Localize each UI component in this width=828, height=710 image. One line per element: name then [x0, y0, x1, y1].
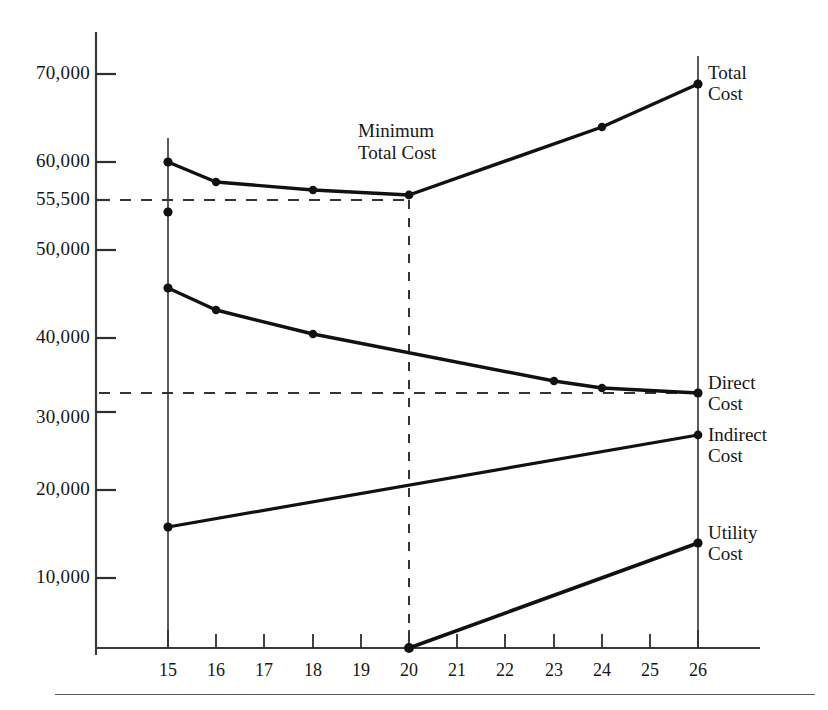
series-label-utility-cost-line2: Cost: [708, 543, 758, 564]
series-label-total-cost-line2: Cost: [708, 83, 747, 104]
xtick-label-26: 26: [678, 660, 718, 681]
chart-canvas: [0, 0, 828, 710]
series-label-direct-cost-line2: Cost: [708, 393, 755, 414]
series-label-utility-cost: Utility Cost: [708, 522, 758, 564]
series-label-total-cost: Total Cost: [708, 62, 747, 104]
series-direct-cost: [163, 283, 702, 397]
ytick-label-20000: 20,000: [0, 478, 90, 500]
xtick-label-19: 19: [341, 660, 381, 681]
cost-vs-duration-chart: 70,000 60,000 55,500 50,000 40,000 30,00…: [0, 0, 828, 710]
xtick-label-17: 17: [244, 660, 284, 681]
ytick-label-30000: 30,000: [0, 406, 90, 428]
ytick-label-60000: 60,000: [0, 150, 90, 172]
xtick-label-20: 20: [389, 660, 429, 681]
ytick-label-55500: 55,500: [0, 188, 90, 210]
series-label-utility-cost-line1: Utility: [708, 522, 758, 543]
series-label-direct-cost: Direct Cost: [708, 372, 755, 414]
ytick-label-10000: 10,000: [0, 566, 90, 588]
series-label-indirect-cost-line2: Cost: [708, 445, 767, 466]
y-axis-ticks: [96, 74, 116, 578]
series-label-total-cost-line1: Total: [708, 62, 747, 83]
annotation-minimum-total-cost: Minimum Total Cost: [358, 120, 436, 164]
ytick-label-50000: 50,000: [0, 238, 90, 260]
series-indirect-cost: [163, 431, 702, 532]
bottom-divider-rule: [55, 694, 815, 695]
ytick-label-40000: 40,000: [0, 326, 90, 348]
xtick-label-18: 18: [293, 660, 333, 681]
xtick-label-16: 16: [196, 660, 236, 681]
crash-point-marker: [163, 207, 172, 216]
ytick-label-70000: 70,000: [0, 62, 90, 84]
xtick-label-23: 23: [534, 660, 574, 681]
annotation-minimum-total-cost-line1: Minimum: [358, 120, 436, 142]
xtick-label-22: 22: [485, 660, 525, 681]
series-label-indirect-cost: Indirect Cost: [708, 424, 767, 466]
series-label-indirect-cost-line1: Indirect: [708, 424, 767, 445]
series-label-direct-cost-line1: Direct: [708, 372, 755, 393]
xtick-label-21: 21: [437, 660, 477, 681]
annotation-minimum-total-cost-line2: Total Cost: [358, 142, 436, 164]
xtick-label-15: 15: [148, 660, 188, 681]
xtick-label-25: 25: [630, 660, 670, 681]
xtick-label-24: 24: [582, 660, 622, 681]
